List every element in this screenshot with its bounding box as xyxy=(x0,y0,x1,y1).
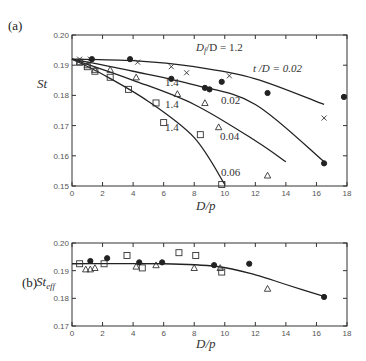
panel-label-a: (a) xyxy=(8,18,22,33)
panel-a-fit-curves xyxy=(72,59,324,184)
y-tick-label: 0.15 xyxy=(53,182,69,191)
triangle-marker xyxy=(174,91,180,97)
x-tick-label: 16 xyxy=(312,189,321,198)
filled-circle-marker xyxy=(247,261,252,266)
triangle-marker xyxy=(92,265,98,271)
annotation-0-02: 0.02 xyxy=(221,94,240,106)
y-tick-label: 0.20 xyxy=(53,239,69,248)
filled-circle-marker xyxy=(321,161,326,166)
annotation-df-d-1-2: Df/D = 1.2 xyxy=(195,41,243,55)
panel-b-data-points xyxy=(77,250,327,300)
x-marker xyxy=(227,73,232,78)
filled-circle-marker xyxy=(219,79,224,84)
panel-a-y-label: St xyxy=(37,76,48,91)
y-tick-label: 0.18 xyxy=(53,91,69,100)
filled-circle-marker xyxy=(321,294,326,299)
x-tick-label: 10 xyxy=(220,329,229,338)
annotation-t-d-0-02: t /D = 0.02 xyxy=(253,62,302,74)
x-tick-label: 18 xyxy=(343,189,352,198)
panel-a-y-ticks: 0.150.160.170.180.190.20 xyxy=(53,31,347,191)
triangle-marker xyxy=(264,172,270,178)
panel-b-y-label: Steff xyxy=(36,274,57,291)
x-tick-label: 12 xyxy=(251,329,260,338)
filled-circle-marker xyxy=(89,57,94,62)
y-tick-label: 0.17 xyxy=(53,322,69,331)
square-marker xyxy=(124,252,130,258)
fit-curve xyxy=(72,264,326,297)
x-tick-label: 0 xyxy=(70,329,75,338)
annotation-1-4-b: 1.4 xyxy=(165,98,179,110)
square-marker xyxy=(176,250,182,256)
y-tick-label: 0.16 xyxy=(53,152,69,161)
panel-a-x-label: D/p xyxy=(195,198,216,213)
filled-circle-marker xyxy=(265,90,270,95)
x-tick-label: 12 xyxy=(251,189,260,198)
filled-circle-marker xyxy=(105,256,110,261)
square-marker xyxy=(139,265,145,271)
panel-b-fit-curve xyxy=(72,264,326,297)
x-tick-label: 10 xyxy=(220,189,229,198)
filled-circle-marker xyxy=(127,57,132,62)
x-tick-label: 14 xyxy=(281,329,290,338)
panel-a-data-points xyxy=(76,57,346,188)
x-marker xyxy=(169,64,174,69)
y-tick-label: 0.18 xyxy=(53,294,69,303)
panel-label-b: (b) xyxy=(22,275,37,290)
x-tick-label: 2 xyxy=(100,329,105,338)
x-tick-label: 6 xyxy=(161,189,166,198)
x-tick-label: 14 xyxy=(281,189,290,198)
annotation-1-4-a: 1.4 xyxy=(165,76,179,88)
panel-b-y-ticks: 0.170.180.190.20 xyxy=(53,239,347,331)
x-tick-label: 2 xyxy=(100,189,105,198)
fit-curve xyxy=(72,59,225,184)
filled-circle-marker xyxy=(211,263,216,268)
x-tick-label: 6 xyxy=(161,329,166,338)
x-tick-label: 4 xyxy=(131,329,136,338)
x-marker xyxy=(322,116,327,121)
x-tick-label: 16 xyxy=(312,329,321,338)
panel-a-axes: 024681012141618 0.150.160.170.180.190.20… xyxy=(37,31,352,213)
annotation-0-06: 0.06 xyxy=(221,166,241,178)
chart-figure: (a) (b) 024681012141618 0.150.160.170.18… xyxy=(0,0,366,361)
triangle-marker xyxy=(133,74,139,80)
panel-b-x-ticks: 024681012141618 xyxy=(70,243,352,338)
y-tick-label: 0.19 xyxy=(53,267,69,276)
panel-b-frame xyxy=(72,243,347,326)
x-tick-label: 4 xyxy=(131,189,136,198)
x-tick-label: 0 xyxy=(70,189,75,198)
triangle-marker xyxy=(191,265,197,271)
panel-b-x-label: D/p xyxy=(195,336,216,351)
annotation-0-04: 0.04 xyxy=(220,130,240,142)
annotation-1-4-c: 1.4 xyxy=(165,121,179,133)
x-tick-label: 18 xyxy=(343,329,352,338)
x-tick-label: 8 xyxy=(192,189,197,198)
filled-circle-marker xyxy=(207,87,212,92)
x-marker xyxy=(184,70,189,75)
filled-circle-marker xyxy=(341,94,346,99)
triangle-marker xyxy=(264,285,270,291)
square-marker xyxy=(193,252,199,258)
filled-circle-marker xyxy=(160,260,165,265)
square-marker xyxy=(219,269,225,275)
filled-circle-marker xyxy=(88,258,93,263)
triangle-marker xyxy=(153,262,159,268)
panel-a-frame xyxy=(72,35,347,186)
triangle-marker xyxy=(202,100,208,106)
panel-b-axes: 024681012141618 0.170.180.190.20 Steff D… xyxy=(36,239,352,351)
y-tick-label: 0.17 xyxy=(53,122,69,131)
y-tick-label: 0.19 xyxy=(53,61,69,70)
square-marker xyxy=(197,132,203,138)
triangle-marker xyxy=(215,124,221,130)
filled-circle-marker xyxy=(137,260,142,265)
y-tick-label: 0.20 xyxy=(53,31,69,40)
